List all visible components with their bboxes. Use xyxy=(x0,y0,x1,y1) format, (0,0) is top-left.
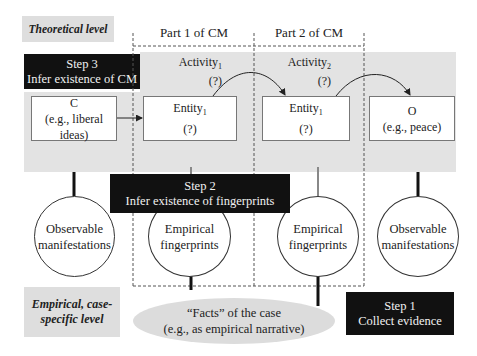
facts-line1: “Facts” of the case xyxy=(187,305,281,321)
facts-of-the-case-ellipse: “Facts” of the case (e.g., as empirical … xyxy=(133,298,335,344)
step1-box: Step 1 Collect evidence xyxy=(346,292,454,335)
facts-line2: (e.g., as empirical narrative) xyxy=(164,321,305,337)
empirical-level-label: Empirical, case- specific level xyxy=(24,287,120,337)
circle-right-line2: manifestations xyxy=(382,237,455,253)
empirical-level-line1: Empirical, case- xyxy=(32,297,113,312)
step1-title: Step 1 xyxy=(384,299,416,314)
step2-box: Step 2 Infer existence of fingerprints xyxy=(110,174,290,213)
circle-left-line1: Observable xyxy=(46,221,103,237)
step2-text: Infer existence of fingerprints xyxy=(126,194,275,209)
observable-manifestations-right: Observable manifestations xyxy=(377,196,459,277)
circle-fp2-line1: Empirical xyxy=(293,221,342,237)
circle-left-line2: manifestations xyxy=(38,237,111,253)
circle-right-line1: Observable xyxy=(390,221,447,237)
step1-text: Collect evidence xyxy=(358,314,442,329)
empirical-level-line2: specific level xyxy=(41,312,104,327)
step2-title: Step 2 xyxy=(184,179,216,194)
circle-fp1-line1: Empirical xyxy=(165,221,214,237)
circle-fp2-line2: fingerprints xyxy=(289,237,347,253)
circle-fp1-line2: fingerprints xyxy=(160,237,218,253)
observable-manifestations-left: Observable manifestations xyxy=(34,196,115,277)
